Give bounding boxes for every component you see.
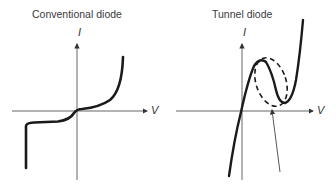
conventional-axes (12, 44, 147, 180)
tunnel-axes (176, 44, 313, 180)
conventional-iv-curve (26, 57, 123, 168)
annotation-pointer-arrow (272, 110, 280, 172)
tunnel-iv-curve (229, 20, 303, 176)
diode-iv-diagram (0, 0, 336, 188)
